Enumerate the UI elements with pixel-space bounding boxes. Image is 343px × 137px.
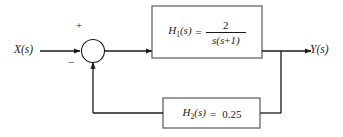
- denominator-tail: 1): [230, 34, 239, 46]
- feedback-block-label-base: H: [183, 106, 191, 118]
- output-label: Y(s): [310, 44, 329, 56]
- forward-block-content: H1(s) = 2 s(s+1): [153, 7, 261, 57]
- feedback-block-equals: =: [209, 108, 217, 120]
- block-diagram: X(s) Y(s) + − H1(s) = 2 s(s+1) H2(s) = 0…: [0, 0, 343, 137]
- forward-block-equals: =: [195, 26, 203, 38]
- feedback-block-label-arg: (s): [194, 106, 206, 118]
- summing-junction-minus-sign: −: [68, 57, 74, 68]
- forward-block-numerator: 2: [217, 19, 235, 32]
- summing-junction-plus-sign: +: [76, 20, 82, 31]
- forward-block-fraction: 2 s(s+1): [206, 19, 246, 46]
- input-label: X(s): [14, 44, 33, 56]
- feedback-block-label: H2(s): [183, 106, 206, 121]
- feedback-block-content: H2(s) = 0.25: [164, 99, 260, 128]
- feedback-block-expression: H2(s) = 0.25: [183, 106, 242, 121]
- feedback-block-value: 0.25: [220, 108, 241, 120]
- forward-block-label: H1(s): [168, 24, 191, 39]
- forward-block-denominator: s(s+1): [209, 33, 243, 46]
- denominator-base: s(s: [212, 34, 224, 46]
- forward-block-label-arg: (s): [180, 24, 192, 36]
- forward-block-expression: H1(s) = 2 s(s+1): [168, 19, 246, 46]
- forward-block-label-base: H: [168, 24, 176, 36]
- summing-junction-circle: [82, 40, 105, 63]
